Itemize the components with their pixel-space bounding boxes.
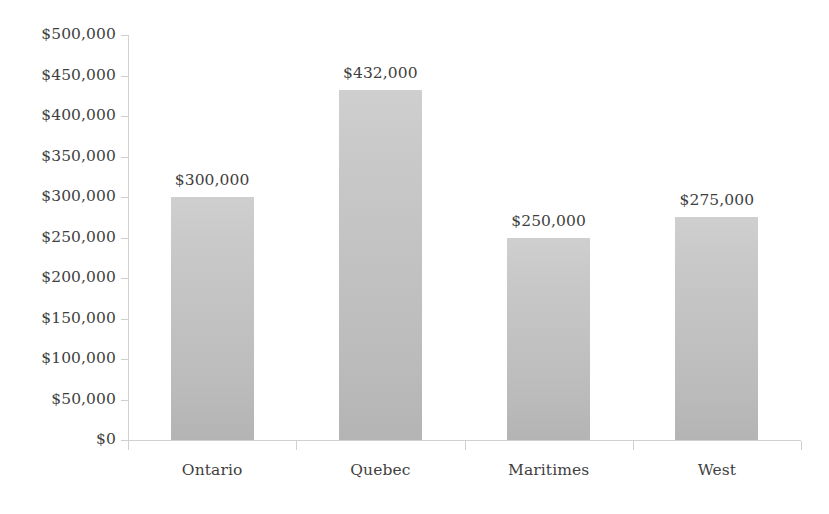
bar-ontario — [171, 197, 254, 440]
category-label-west: West — [637, 461, 797, 479]
y-axis-tick — [121, 359, 129, 360]
category-label-maritimes: Maritimes — [469, 461, 629, 479]
y-axis-label: $350,000 — [0, 147, 116, 165]
y-axis-label: $250,000 — [0, 228, 116, 246]
y-axis-label: $50,000 — [0, 390, 116, 408]
x-axis-tick — [801, 441, 802, 450]
y-axis-tick — [121, 197, 129, 198]
bar-quebec — [339, 90, 422, 440]
bar-maritimes — [507, 238, 590, 441]
category-label-ontario: Ontario — [132, 461, 292, 479]
y-axis-label: $500,000 — [0, 25, 116, 43]
y-axis-tick — [121, 116, 129, 117]
y-axis-label: $450,000 — [0, 66, 116, 84]
y-axis-tick — [121, 238, 129, 239]
bar-value-label-west: $275,000 — [647, 191, 787, 209]
y-axis-tick — [121, 319, 129, 320]
y-axis-label: $100,000 — [0, 349, 116, 367]
x-axis-tick — [465, 441, 466, 450]
x-axis-tick — [633, 441, 634, 450]
y-axis-label: $400,000 — [0, 106, 116, 124]
y-axis-tick — [121, 157, 129, 158]
bar-value-label-quebec: $432,000 — [310, 64, 450, 82]
y-axis-label: $150,000 — [0, 309, 116, 327]
bar-west — [675, 217, 758, 440]
y-axis-label: $200,000 — [0, 268, 116, 286]
bar-chart: $500,000$450,000$400,000$350,000$300,000… — [0, 0, 829, 514]
y-axis-tick — [121, 35, 129, 36]
x-axis-tick — [296, 441, 297, 450]
y-axis-tick — [121, 278, 129, 279]
y-axis-tick — [121, 76, 129, 77]
category-label-quebec: Quebec — [300, 461, 460, 479]
bar-value-label-ontario: $300,000 — [142, 171, 282, 189]
bar-value-label-maritimes: $250,000 — [479, 212, 619, 230]
x-axis-tick — [128, 441, 129, 450]
y-axis-label: $300,000 — [0, 187, 116, 205]
y-axis-tick — [121, 400, 129, 401]
y-axis-label: $0 — [0, 430, 116, 448]
